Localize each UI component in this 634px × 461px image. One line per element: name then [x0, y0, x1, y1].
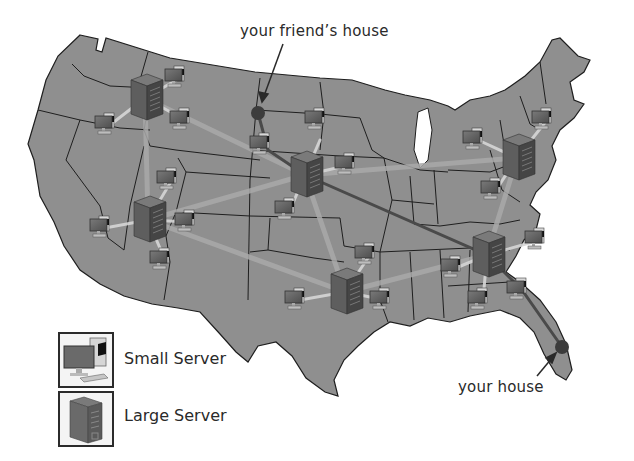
small-server-icon — [90, 216, 109, 237]
small-server-icon — [355, 243, 374, 264]
large-server-icon — [473, 231, 505, 277]
small-server-icon — [468, 288, 487, 309]
small-server-icon — [370, 288, 389, 309]
small-server-icon — [150, 248, 169, 269]
small-server-icon — [60, 334, 112, 386]
small-server-icon — [463, 128, 482, 149]
small-server-icon — [305, 108, 324, 129]
small-server-icon — [165, 66, 184, 87]
small-server-icon — [275, 198, 294, 219]
small-server-icon — [157, 168, 176, 189]
small-server-icon — [335, 153, 354, 174]
friend-house-label: your friend’s house — [240, 22, 389, 40]
legend-small-server-box — [58, 332, 114, 388]
small-server-icon — [481, 178, 500, 199]
large-server-icon — [331, 268, 363, 314]
legend-large-server-box — [58, 391, 114, 447]
large-server-icon — [131, 74, 163, 120]
small-server-icon — [285, 288, 304, 309]
your-house-label: your house — [458, 378, 544, 396]
friend-house-marker — [251, 106, 265, 120]
legend-large-server-label: Large Server — [124, 406, 227, 425]
small-server-icon — [95, 113, 114, 134]
large-server-icon — [503, 134, 535, 180]
small-server-icon — [170, 108, 189, 129]
small-server-icon — [507, 278, 526, 299]
legend-small-server-label: Small Server — [124, 349, 226, 368]
small-server-icon — [250, 133, 269, 154]
small-server-icon — [525, 228, 544, 249]
small-server-icon — [175, 210, 194, 231]
large-server-icon — [134, 196, 166, 242]
network-diagram: your friend’s house your house Small Ser… — [0, 0, 634, 461]
large-server-icon — [60, 393, 112, 445]
large-server-icon — [291, 151, 323, 197]
small-server-icon — [441, 256, 460, 277]
small-server-icon — [532, 108, 551, 129]
